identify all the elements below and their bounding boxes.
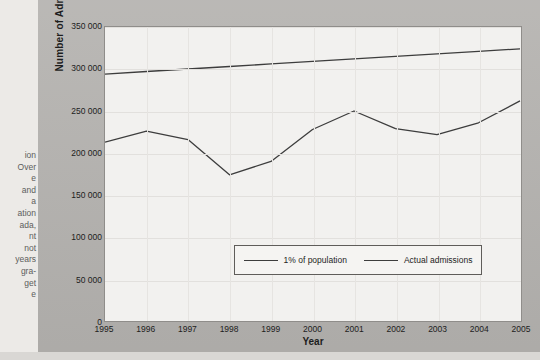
margin-text-line: e bbox=[15, 289, 36, 301]
legend-item-population: 1% of population bbox=[244, 255, 347, 265]
margin-text-lines: ion Over e and a ation ada, nt not years… bbox=[15, 150, 36, 301]
y-axis-tick-label: 50 000 bbox=[50, 275, 102, 285]
x-axis-title: Year bbox=[104, 336, 522, 347]
margin-text-line: and bbox=[15, 185, 36, 197]
x-axis-tick-label: 1998 bbox=[220, 324, 239, 334]
gridline-vertical bbox=[188, 27, 189, 321]
margin-text-line: get bbox=[15, 278, 36, 290]
gridline-vertical bbox=[230, 27, 231, 321]
y-axis-tick-label: 300 000 bbox=[50, 63, 102, 73]
figure-page: ion Over e and a ation ada, nt not years… bbox=[0, 0, 540, 360]
x-axis-tick-label: 1997 bbox=[178, 324, 197, 334]
margin-text-line: Over bbox=[15, 162, 36, 174]
legend-line-swatch-icon bbox=[244, 260, 278, 261]
x-axis-tick-label: 2004 bbox=[470, 324, 489, 334]
plot-area bbox=[104, 26, 522, 322]
margin-text-line: a bbox=[15, 196, 36, 208]
margin-text-line: not bbox=[15, 243, 36, 255]
y-axis-tick-label: 200 000 bbox=[50, 148, 102, 158]
legend-item-admissions: Actual admissions bbox=[364, 255, 473, 265]
y-axis-tick-label: 250 000 bbox=[50, 106, 102, 116]
x-axis-tick-label: 2003 bbox=[428, 324, 447, 334]
margin-text-line: ada, bbox=[15, 220, 36, 232]
gridline-vertical bbox=[272, 27, 273, 321]
margin-text-line: gra- bbox=[15, 266, 36, 278]
margin-text-line: years bbox=[15, 254, 36, 266]
gridline-vertical bbox=[397, 27, 398, 321]
legend-label: Actual admissions bbox=[404, 255, 473, 265]
margin-text-line: ion bbox=[15, 150, 36, 162]
y-axis-tick-labels: 050 000100 000150 000200 000250 000300 0… bbox=[46, 0, 102, 352]
gridline-vertical bbox=[480, 27, 481, 321]
x-axis-tick-label: 1995 bbox=[95, 324, 114, 334]
margin-text-line: e bbox=[15, 173, 36, 185]
x-axis-tick-label: 2002 bbox=[386, 324, 405, 334]
y-axis-tick-label: 150 000 bbox=[50, 190, 102, 200]
gridline-vertical bbox=[147, 27, 148, 321]
margin-text-line: nt bbox=[15, 231, 36, 243]
x-axis-tick-label: 2000 bbox=[303, 324, 322, 334]
y-axis-tick-label: 350 000 bbox=[50, 21, 102, 31]
x-axis-tick-label: 1999 bbox=[261, 324, 280, 334]
margin-text-line: ation bbox=[15, 208, 36, 220]
x-axis-tick-label: 1996 bbox=[136, 324, 155, 334]
chart-legend: 1% of population Actual admissions bbox=[234, 245, 482, 275]
gridline-vertical bbox=[439, 27, 440, 321]
gridline-vertical bbox=[314, 27, 315, 321]
x-axis-tick-label: 2001 bbox=[345, 324, 364, 334]
margin-body-text: ion Over e and a ation ada, nt not years… bbox=[0, 0, 38, 360]
plot-inner bbox=[105, 27, 521, 321]
x-axis-tick-label: 2005 bbox=[512, 324, 531, 334]
y-axis-tick-label: 100 000 bbox=[50, 232, 102, 242]
legend-label: 1% of population bbox=[284, 255, 347, 265]
gridline-vertical bbox=[355, 27, 356, 321]
legend-line-swatch-icon bbox=[364, 260, 398, 261]
